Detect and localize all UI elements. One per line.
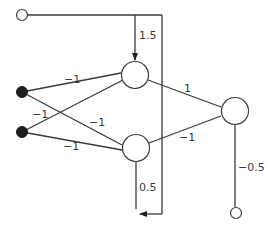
neural-network-diagram: 1.5 0.5 −1 −1 −1 −1 1 −1 −0.5 (0, 0, 270, 231)
input-node-2 (17, 127, 28, 138)
bias-node-output (231, 208, 242, 219)
weight-label: 1.5 (139, 29, 157, 42)
hidden-node-top (122, 62, 149, 89)
weight-label: −1 (63, 140, 79, 153)
input-node-1 (17, 87, 28, 98)
weight-label: 1 (184, 82, 191, 95)
weight-label: −1 (89, 116, 105, 129)
edge-input2-hidden-top (22, 80, 123, 132)
weight-label: −1 (179, 131, 195, 144)
weight-label: −1 (32, 108, 48, 121)
output-node (222, 98, 249, 125)
weight-label: −0.5 (238, 161, 265, 174)
weight-label: 0.5 (139, 181, 157, 194)
bias-node-top (17, 10, 28, 21)
hidden-node-bottom (123, 135, 150, 162)
weight-label: −1 (64, 73, 80, 86)
